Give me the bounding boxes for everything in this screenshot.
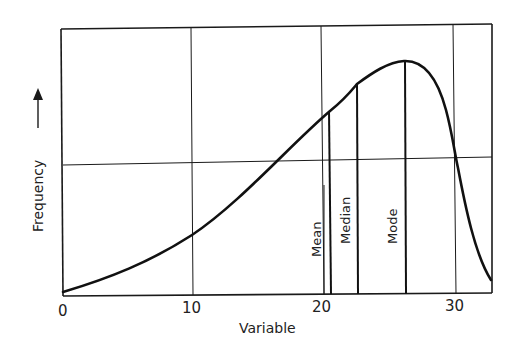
x-tick-0: 0 [58, 302, 68, 320]
frequency-curve [63, 61, 491, 292]
gridline-x-10 [191, 28, 193, 295]
statistic-lines [329, 61, 406, 294]
mode-label: Mode [385, 209, 400, 244]
mean-label: Mean [309, 222, 324, 257]
frequency-chart: Mean Median Mode 0 10 20 30 Variable Fre… [0, 0, 516, 349]
median-label: Median [338, 197, 353, 244]
up-arrow-icon [33, 88, 43, 128]
x-axis-label: Variable [239, 320, 296, 336]
mode-line [405, 61, 406, 294]
mean-line [329, 111, 331, 294]
x-tick-30: 30 [445, 297, 464, 315]
x-tick-10: 10 [182, 299, 201, 317]
x-tick-20: 20 [312, 298, 331, 316]
median-line [357, 84, 358, 294]
y-axis-label: Frequency [30, 160, 46, 232]
